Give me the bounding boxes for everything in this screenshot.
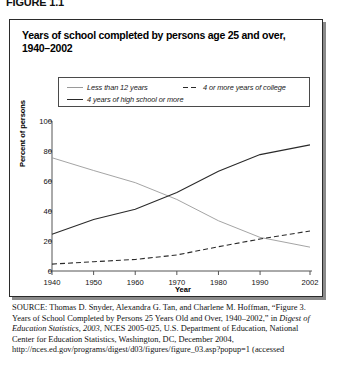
figure-container: FIGURE 1.1 Years of school completed by … (0, 0, 338, 388)
figure-label: FIGURE 1.1 (6, 0, 64, 8)
y-tick-label: 80 (26, 147, 52, 156)
y-tick-label: 40 (26, 207, 52, 216)
series-line (52, 231, 310, 264)
legend-swatch-dashed-icon (183, 85, 199, 90)
chart-panel: Years of school completed by persons age… (9, 19, 323, 297)
source-text-1: : Thomas D. Snyder, Alexandra G. Tan, an… (12, 303, 306, 323)
legend-swatch-solid-dark-icon (67, 97, 83, 102)
legend-item-high-school: 4 years of high school or more (67, 95, 183, 104)
source-prefix: SOURCE (12, 303, 45, 312)
legend-label: 4 years of high school or more (87, 95, 183, 104)
plot-area: Percent of persons 100806040200 19401950… (22, 115, 314, 313)
x-axis-label: Year (52, 285, 314, 294)
chart-title: Years of school completed by persons age… (22, 29, 310, 55)
legend-item-college: 4 or more years of college (183, 83, 286, 92)
legend-label: Less than 12 years (87, 83, 148, 92)
source-citation: SOURCE: Thomas D. Snyder, Alexandra G. T… (12, 303, 320, 356)
y-tick-label: 60 (26, 177, 52, 186)
legend-item-less-than-12: Less than 12 years (67, 83, 148, 92)
chart-svg (22, 115, 314, 290)
series-line (52, 145, 310, 234)
series-line (52, 158, 310, 247)
chart-legend: Less than 12 years 4 or more years of co… (58, 77, 310, 107)
y-axis-ticks: 100806040200 (22, 115, 52, 275)
legend-swatch-solid-light-icon (67, 85, 83, 90)
y-tick-label: 20 (26, 237, 52, 246)
y-tick-label: 0 (26, 267, 52, 276)
legend-label: 4 or more years of college (203, 83, 286, 92)
y-tick-label: 100 (26, 117, 52, 126)
